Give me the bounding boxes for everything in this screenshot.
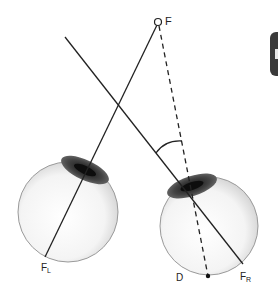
- deviation-angle-arc: [156, 141, 182, 153]
- deviation-point-marker: [206, 274, 210, 278]
- label-D: D: [176, 272, 183, 283]
- right-eye: [160, 168, 258, 275]
- left-eye: [18, 150, 118, 262]
- label-F: F: [165, 15, 172, 27]
- fixation-point-marker: [155, 19, 162, 26]
- label-F-right: FR: [240, 271, 251, 283]
- label-F-left: FL: [41, 262, 51, 274]
- binocular-diagram: F D FL FR: [0, 0, 278, 291]
